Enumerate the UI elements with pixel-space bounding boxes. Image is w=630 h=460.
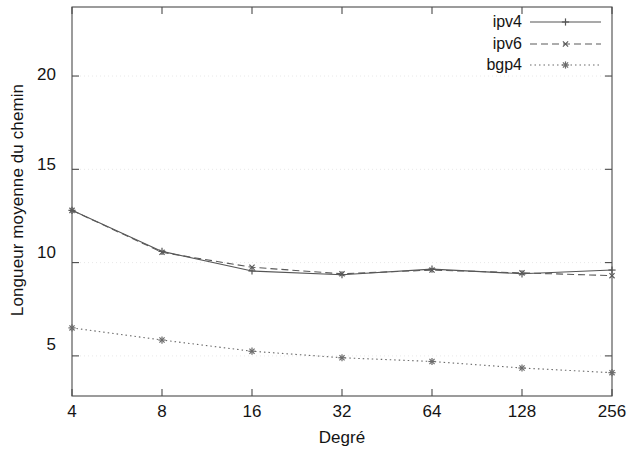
legend-label-ipv6: ipv6	[452, 35, 522, 53]
series-ipv4	[68, 207, 615, 279]
x-axis-title: Degré	[72, 428, 612, 448]
legend-label-bgp4: bgp4	[452, 56, 522, 74]
y-tick-label-20: 20	[10, 65, 56, 85]
plot-canvas	[0, 0, 630, 460]
legend-sample-bgp4	[530, 61, 601, 68]
y-tick-label-10: 10	[10, 243, 56, 263]
x-tick-label-256: 256	[582, 402, 630, 422]
grid-lines	[72, 76, 612, 356]
x-tick-label-16: 16	[222, 402, 282, 422]
legend-label-ipv4: ipv4	[452, 13, 522, 31]
series-ipv6	[69, 208, 614, 278]
x-tick-label-32: 32	[312, 402, 372, 422]
x-tick-label-8: 8	[132, 402, 192, 422]
y-axis-title-text: Longueur moyenne du chemin	[8, 84, 28, 316]
data-series	[68, 207, 615, 377]
y-tick-label-5: 5	[10, 335, 56, 355]
legend-sample-ipv4	[530, 18, 601, 25]
legend-samples	[530, 18, 601, 68]
x-tick-label-64: 64	[402, 402, 462, 422]
x-tick-label-128: 128	[492, 402, 552, 422]
legend-sample-ipv6	[530, 41, 601, 46]
x-tick-label-4: 4	[42, 402, 102, 422]
y-tick-label-15: 15	[10, 155, 56, 175]
series-bgp4	[68, 324, 615, 376]
chart-figure: Longueur moyenne du chemin 20 15 10 5 4 …	[0, 0, 630, 460]
